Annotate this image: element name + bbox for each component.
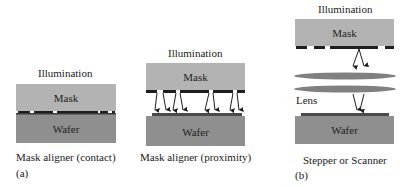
- illumination-label-proximity: Illumination: [168, 48, 222, 59]
- resist-layer: [152, 113, 242, 116]
- sublabel-b: (b): [295, 170, 308, 181]
- caption-proximity: Mask aligner (proximity): [140, 152, 251, 163]
- wafer-label-proximity: Wafer: [146, 127, 245, 138]
- illumination-label-contact: Illumination: [38, 68, 92, 79]
- wafer-label-projection: Wafer: [295, 125, 394, 136]
- mask-pattern: [146, 90, 245, 93]
- resist-layer: [301, 113, 389, 116]
- mask-pattern: [296, 46, 394, 49]
- lens-element-2: [294, 86, 396, 93]
- mask-label-contact: Mask: [16, 93, 116, 104]
- lens-label: Lens: [296, 95, 317, 106]
- light-rays-upper: [353, 49, 364, 66]
- light-rays-lower: [353, 94, 364, 110]
- lens-element-1: [294, 73, 396, 80]
- caption-contact: Mask aligner (contact): [16, 152, 116, 163]
- sublabel-a: (a): [16, 168, 28, 179]
- wafer-label-contact: Wafer: [16, 124, 116, 135]
- caption-projection: Stepper or Scanner: [303, 155, 387, 166]
- light-rays: [155, 93, 239, 110]
- mask-label-projection: Mask: [295, 28, 394, 39]
- mask-label-proximity: Mask: [146, 72, 245, 83]
- illumination-label-projection: Illumination: [318, 4, 372, 15]
